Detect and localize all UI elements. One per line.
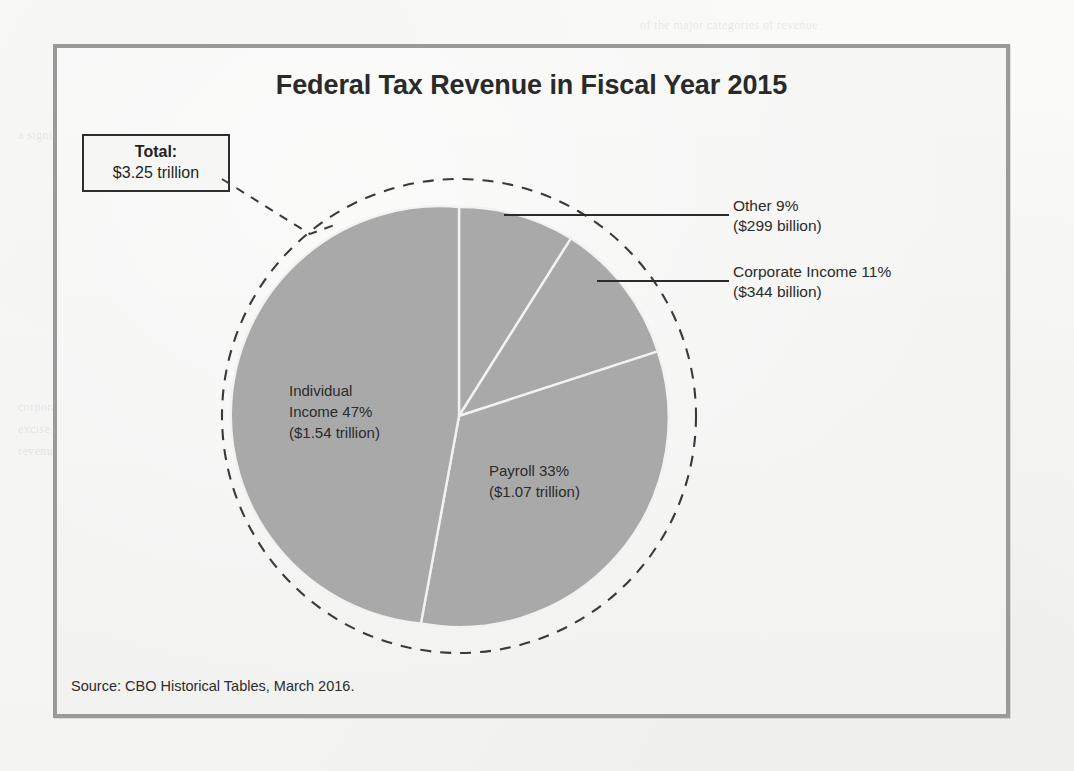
callout-other-line2: ($299 billion) bbox=[733, 216, 822, 236]
source-note: Source: CBO Historical Tables, March 201… bbox=[71, 678, 354, 694]
individual-line2: Income 47% bbox=[289, 401, 380, 422]
payroll-line1: Payroll 33% bbox=[489, 460, 580, 481]
individual-line1: Individual bbox=[289, 380, 380, 401]
callout-other-line1: Other 9% bbox=[733, 196, 822, 216]
bleed-text: of the major categories of revenue bbox=[640, 18, 818, 33]
total-connector-line bbox=[222, 179, 340, 234]
payroll-line2: ($1.07 trillion) bbox=[489, 481, 580, 502]
figure-frame: Federal Tax Revenue in Fiscal Year 2015 … bbox=[53, 44, 1010, 718]
callout-corporate-line1: Corporate Income 11% bbox=[733, 262, 891, 282]
callout-corporate-line2: ($344 billion) bbox=[733, 282, 891, 302]
individual-line3: ($1.54 trillion) bbox=[289, 422, 380, 443]
scanned-page-background: of the major categories of revenue taxes… bbox=[0, 0, 1074, 771]
callout-other: Other 9% ($299 billion) bbox=[733, 196, 822, 236]
pie-label-individual-income: Individual Income 47% ($1.54 trillion) bbox=[289, 380, 380, 443]
pie-chart bbox=[57, 48, 1014, 722]
pie-label-payroll: Payroll 33% ($1.07 trillion) bbox=[489, 460, 580, 502]
callout-corporate-income: Corporate Income 11% ($344 billion) bbox=[733, 262, 891, 302]
